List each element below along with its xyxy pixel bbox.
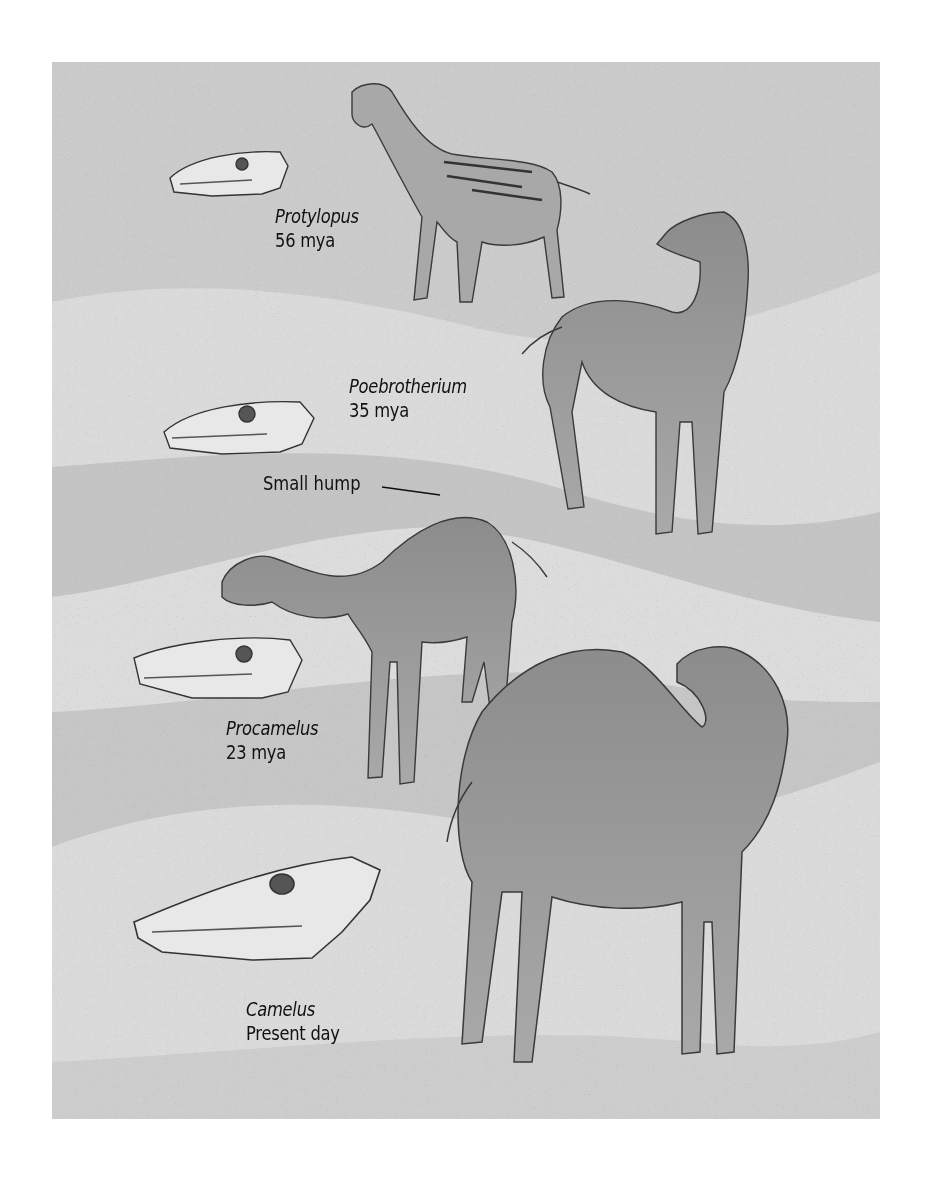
genus-name: Protylopus xyxy=(275,204,359,228)
stage-label-poebrotherium: Poebrotherium 35 mya xyxy=(349,374,467,422)
stage-label-protylopus: Protylopus 56 mya xyxy=(275,204,359,252)
age-label: Present day xyxy=(246,1021,340,1045)
genus-name: Poebrotherium xyxy=(349,374,467,398)
camel-evolution-figure: Protylopus 56 mya Poebrotherium 35 mya P… xyxy=(52,62,880,1119)
age-label: 56 mya xyxy=(275,228,359,252)
genus-name: Camelus xyxy=(246,997,340,1021)
age-label: 35 mya xyxy=(349,398,467,422)
age-label: 23 mya xyxy=(226,740,318,764)
sand-bands-background xyxy=(52,62,880,1119)
stage-label-procamelus: Procamelus 23 mya xyxy=(226,716,318,764)
genus-name: Procamelus xyxy=(226,716,318,740)
stage-label-camelus: Camelus Present day xyxy=(246,997,340,1045)
small-hump-callout: Small hump xyxy=(263,471,361,495)
